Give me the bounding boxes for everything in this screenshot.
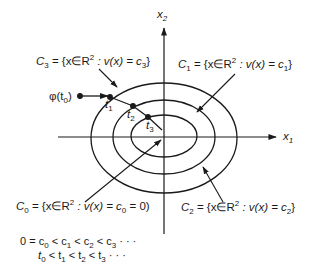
c3-label: C3 = {x∈R2 : v(x) = c3} bbox=[36, 53, 150, 70]
trajectory-start-point bbox=[78, 94, 83, 99]
c0-callout-arrow bbox=[85, 140, 161, 202]
callout-arrows bbox=[85, 69, 235, 202]
c2-label: C2 = {x∈R2 : v(x) = c2} bbox=[181, 199, 295, 216]
x1-axis-label: x1 bbox=[282, 130, 293, 145]
c1-label: C1 = {x∈R2 : v(x) = c1} bbox=[178, 56, 292, 73]
trajectory-point-t1 bbox=[108, 95, 113, 100]
c0-label: C0 = {x∈R2 : v(x) = c0 = 0) bbox=[16, 198, 150, 215]
t2-label: t2 bbox=[127, 108, 135, 123]
constant-ordering: 0 = c0 < c1 < c2 < c3 · · · bbox=[20, 235, 136, 250]
x2-axis-label: x2 bbox=[156, 8, 168, 23]
lyapunov-level-set-diagram: x2 x1 C3 = {x∈R2 : v(x) = c3} C1 = {x∈R2… bbox=[0, 0, 310, 274]
phi-t0-label: φ(t0) bbox=[49, 90, 72, 105]
c2-callout-arrow bbox=[203, 167, 223, 202]
t1-label: t1 bbox=[105, 98, 113, 113]
c1-callout-arrow bbox=[197, 74, 235, 112]
c3-callout-arrow bbox=[99, 69, 117, 87]
trajectory-point-t2 bbox=[131, 104, 136, 109]
time-ordering: t0 < t1 < t2 < t3 · · · bbox=[38, 249, 126, 264]
